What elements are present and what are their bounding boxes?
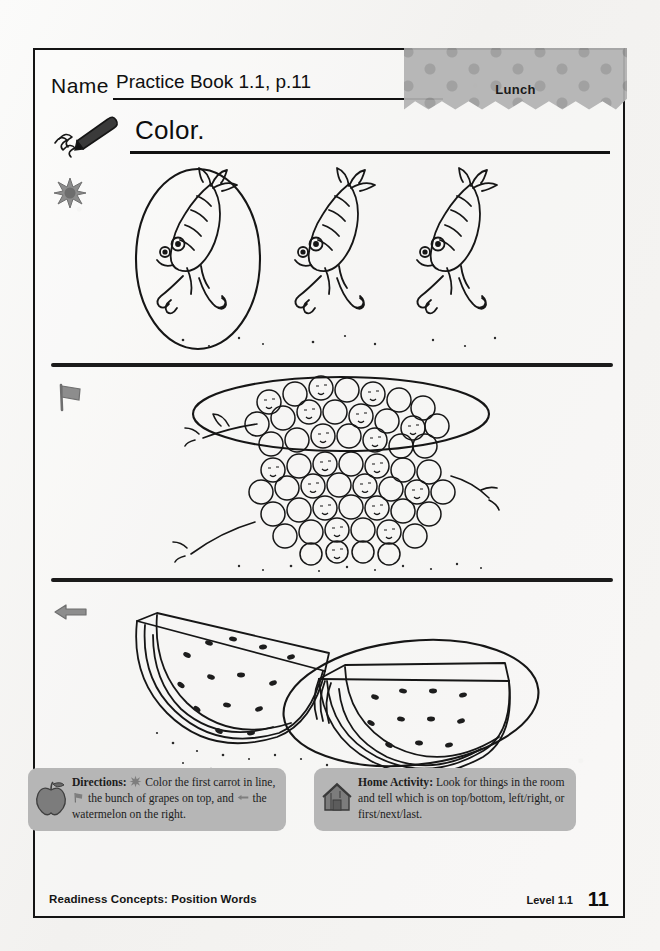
- grapes-illustration-group: [151, 366, 531, 578]
- footer-strand: Readiness Concepts: Position Words: [49, 893, 257, 905]
- name-field-value[interactable]: Practice Book 1.1, p.11: [116, 71, 311, 93]
- instruction-title-row: Color.: [51, 113, 611, 161]
- page-title: Color.: [135, 115, 205, 146]
- scanned-page: Name Practice Book 1.1, p.11 Lunch: [0, 0, 660, 951]
- home-activity-box: Home Activity: Look for things in the ro…: [314, 768, 576, 831]
- directions-label: Directions:: [72, 776, 127, 789]
- theme-tab-label: Lunch: [404, 82, 627, 97]
- name-label: Name: [51, 74, 109, 98]
- home-activity-label: Home Activity:: [358, 776, 433, 789]
- title-underline: [130, 151, 610, 154]
- directions-segment-2: the bunch of grapes on top, and: [88, 792, 234, 805]
- arrow-left-icon: [237, 791, 250, 804]
- apple-icon: [34, 780, 68, 816]
- star-icon: [53, 176, 87, 210]
- row-divider-2: [51, 578, 613, 582]
- exercise-row-carrots: [51, 162, 611, 362]
- arrow-left-icon: [53, 597, 87, 631]
- footer-line: Readiness Concepts: Position Words Level…: [49, 893, 611, 911]
- polka-dot-pattern: [404, 48, 627, 110]
- exercise-row-grapes: [51, 366, 611, 581]
- flag-icon: [72, 791, 85, 804]
- answer-circle-grapes-top: [193, 377, 489, 451]
- directions-segment-1: Color the first carrot in line,: [145, 776, 275, 789]
- footer-page-number: 11: [588, 888, 609, 911]
- watermelon-illustration-group: [113, 593, 563, 793]
- directions-box: Directions: Color the first carrot in li…: [28, 768, 286, 831]
- star-icon: [129, 775, 142, 788]
- footer-level: Level 1.1: [527, 894, 573, 906]
- crayon-icon: [53, 113, 127, 153]
- carrot-illustration-group: [113, 164, 533, 359]
- exercise-row-watermelon: [51, 583, 611, 798]
- flag-icon: [53, 380, 87, 414]
- name-writing-line: [113, 98, 443, 100]
- house-icon: [320, 780, 354, 816]
- theme-tab-lunch: Lunch: [404, 48, 627, 110]
